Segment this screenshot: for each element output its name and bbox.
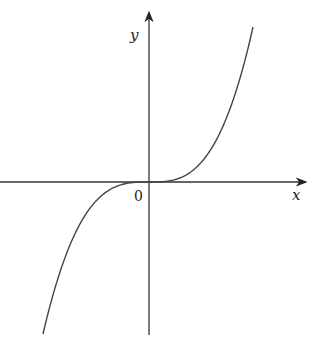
function-graph: x y 0	[0, 0, 320, 359]
cubic-curve	[43, 27, 253, 334]
x-axis-label: x	[292, 186, 301, 204]
origin-label: 0	[134, 188, 143, 204]
y-axis-label: y	[129, 26, 139, 44]
